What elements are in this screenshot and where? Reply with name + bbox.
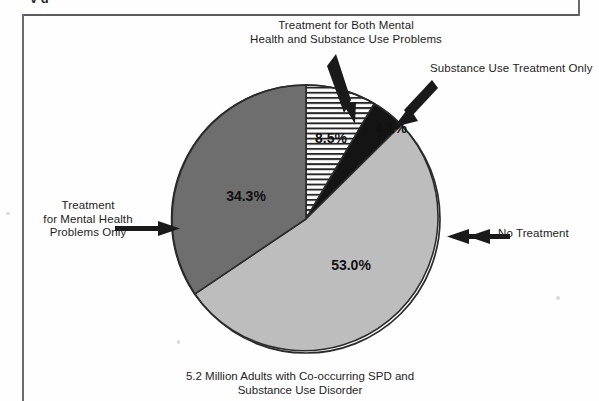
slice-label-no-treatment: 53.0% <box>331 257 371 273</box>
slice-label-mental-health-only: 34.3% <box>226 188 266 204</box>
figure-container: y g 34.3% 53.0% 8.5% <box>0 0 599 401</box>
slice-label-both-treatment: 8.5% <box>315 130 347 146</box>
label-mental-health-treatment-only: Treatment for Mental Health Problems Onl… <box>24 199 152 240</box>
label-both-treatment: Treatment for Both Mental Health and Sub… <box>246 19 446 46</box>
label-substance-use-treatment-only: Substance Use Treatment Only <box>430 62 599 76</box>
chart-caption: 5.2 Million Adults with Co-occurring SPD… <box>150 369 450 397</box>
callout-arrow-substance-only <box>394 80 438 127</box>
label-no-treatment: No Treatment <box>498 227 598 241</box>
